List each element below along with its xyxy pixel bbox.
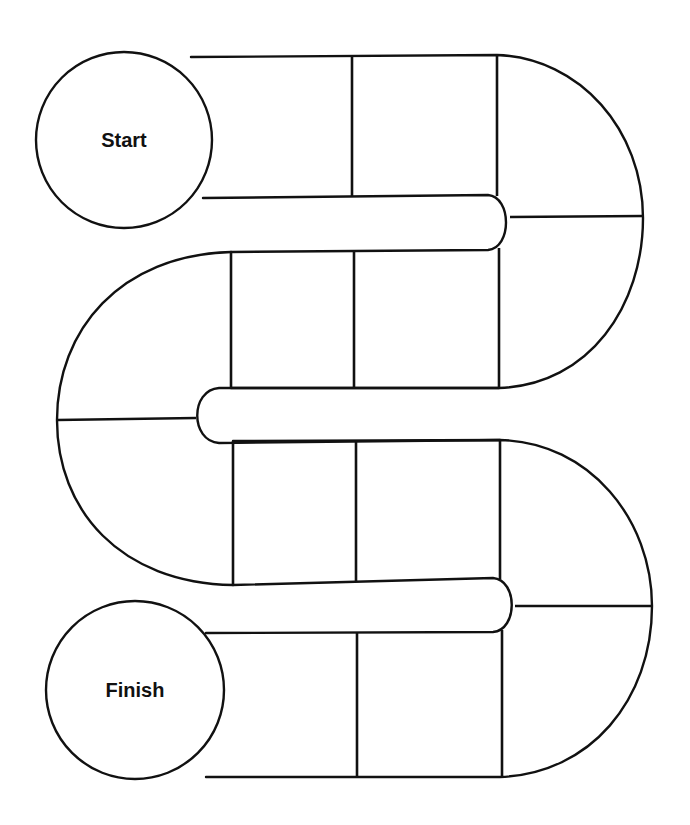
finish-label: Finish xyxy=(106,679,165,701)
space-divider-line xyxy=(510,216,643,217)
start-space[interactable]: Start xyxy=(36,52,212,228)
start-label: Start xyxy=(101,129,147,151)
finish-space[interactable]: Finish xyxy=(46,601,224,779)
game-board: Start Finish xyxy=(0,0,690,825)
